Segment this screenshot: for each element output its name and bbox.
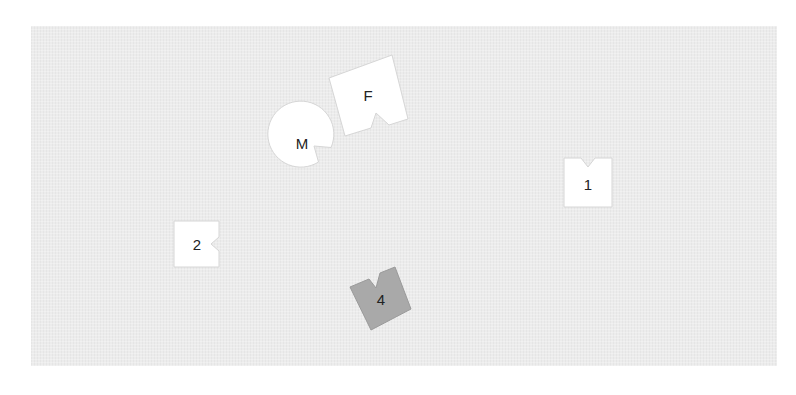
shape-scene: M F 1 2 4 <box>0 0 796 395</box>
shape-4-label: 4 <box>377 291 385 308</box>
shape-m[interactable]: M <box>268 101 334 167</box>
shape-1[interactable]: 1 <box>564 158 612 207</box>
shape-2[interactable]: 2 <box>174 221 219 267</box>
shape-m-label: M <box>296 135 309 152</box>
shape-1-label: 1 <box>584 176 592 193</box>
shape-4[interactable]: 4 <box>350 267 411 330</box>
shape-f-label: F <box>363 87 372 104</box>
shape-2-label: 2 <box>193 236 201 253</box>
shape-f[interactable]: F <box>329 55 408 136</box>
